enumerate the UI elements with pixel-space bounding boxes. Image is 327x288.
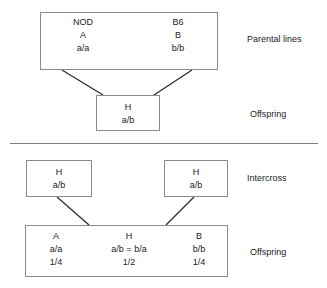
parental-b6-genotype: B <box>142 29 214 42</box>
parental-strain-b6: B6 B b/b <box>142 16 214 55</box>
parental-b6-alleles: b/b <box>142 42 214 55</box>
intercross-parent-left-content: H a/b <box>26 166 92 192</box>
intercross-right-genotype: H <box>164 166 228 179</box>
f2-a-frequency: 1/4 <box>28 256 84 269</box>
parental-strain-nod: NOD A a/a <box>44 16 122 55</box>
f1-offspring-content: H a/b <box>96 101 160 127</box>
f2-b-alleles: b/b <box>174 243 224 256</box>
f2-h-alleles: a/b = b/a <box>88 243 170 256</box>
intercross-left-genotype: H <box>26 166 92 179</box>
connector-nod-to-f1 <box>62 70 103 95</box>
f2-class-h: H a/b = b/a 1/2 <box>88 230 170 269</box>
genetics-breeding-diagram: NOD A a/a B6 B b/b Parental lines H a/b … <box>0 0 327 288</box>
f2-h-frequency: 1/2 <box>88 256 170 269</box>
f1-genotype: H <box>96 101 160 114</box>
section-divider <box>10 143 318 144</box>
stage-label-offspring-f2: Offspring <box>250 246 286 258</box>
parental-b6-strain: B6 <box>142 16 214 29</box>
f2-b-frequency: 1/4 <box>174 256 224 269</box>
parental-nod-genotype: A <box>44 29 122 42</box>
connector-intercross-left-to-progeny <box>57 197 89 225</box>
stage-label-parental-lines: Parental lines <box>247 33 302 45</box>
f2-a-alleles: a/a <box>28 243 84 256</box>
f2-a-genotype: A <box>28 230 84 243</box>
connector-b6-to-f1 <box>154 70 192 95</box>
parental-nod-alleles: a/a <box>44 42 122 55</box>
f2-h-genotype: H <box>88 230 170 243</box>
f2-class-b: B b/b 1/4 <box>174 230 224 269</box>
stage-label-intercross: Intercross <box>247 172 287 184</box>
intercross-right-alleles: a/b <box>164 179 228 192</box>
parental-nod-strain: NOD <box>44 16 122 29</box>
connector-intercross-right-to-progeny <box>166 197 194 225</box>
f2-class-a: A a/a 1/4 <box>28 230 84 269</box>
f2-b-genotype: B <box>174 230 224 243</box>
stage-label-offspring-f1: Offspring <box>250 108 286 120</box>
intercross-parent-right-content: H a/b <box>164 166 228 192</box>
f1-alleles: a/b <box>96 114 160 127</box>
intercross-left-alleles: a/b <box>26 179 92 192</box>
